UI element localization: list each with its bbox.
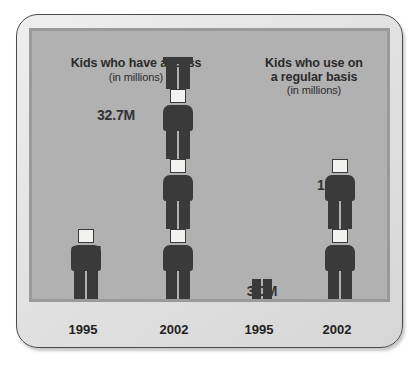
person-leg-left (74, 270, 85, 299)
person-icon (157, 89, 199, 159)
pictogram-column-use-1995 (241, 279, 283, 299)
person-leg-right (179, 130, 190, 159)
person-head (332, 229, 348, 243)
pictogram-chart-panel: Kids who have access (in millions) Kids … (29, 28, 390, 302)
chart-title-use-line1: Kids who use on (265, 56, 363, 70)
pictogram-column-use-2002 (319, 159, 361, 299)
person-leg-right (341, 200, 352, 229)
person-icon (157, 159, 199, 229)
chart-title-use-subtitle: (in millions) (236, 84, 390, 97)
person-torso (163, 245, 193, 271)
person-icon (319, 159, 361, 229)
person-torso (325, 245, 355, 271)
person-leg-right (87, 270, 98, 299)
axis-tick-access-2002: 2002 (144, 322, 204, 337)
person-torso (71, 245, 101, 271)
person-head (332, 159, 348, 173)
person-icon (65, 229, 107, 299)
axis-tick-use-1995: 1995 (229, 322, 289, 337)
person-leg-left (166, 130, 177, 159)
person-leg-left (166, 63, 177, 89)
person-icon-stub (241, 279, 283, 299)
person-head (170, 89, 186, 103)
chart-title-access-subtitle: (in millions) (40, 71, 232, 84)
person-icon (157, 229, 199, 299)
person-leg-right (263, 279, 272, 299)
axis-tick-access-1995: 1995 (53, 322, 113, 337)
person-leg-left (328, 200, 339, 229)
chart-title-use-line2: a regular basis (271, 70, 358, 84)
person-leg-left (166, 200, 177, 229)
value-label-access-2002: 32.7M (80, 107, 152, 123)
person-icon-partial (157, 57, 199, 89)
person-icon (319, 229, 361, 299)
person-leg-right (179, 270, 190, 299)
chart-title-use: Kids who use on a regular basis (in mill… (236, 57, 390, 97)
person-head (170, 229, 186, 243)
person-leg-right (341, 270, 352, 299)
person-leg-left (328, 270, 339, 299)
person-torso (163, 105, 193, 131)
person-torso (325, 175, 355, 201)
pictogram-column-access-1995 (65, 229, 107, 299)
person-head (78, 229, 94, 243)
axis-tick-use-2002: 2002 (307, 322, 367, 337)
chart-title-access: Kids who have access (in millions) (40, 57, 232, 83)
person-torso (163, 175, 193, 201)
person-leg-right (179, 63, 190, 89)
figure-frame: Kids who have access (in millions) Kids … (16, 14, 403, 348)
person-leg-left (252, 279, 261, 299)
person-leg-left (166, 270, 177, 299)
person-leg-right (179, 200, 190, 229)
person-head (170, 159, 186, 173)
pictogram-column-access-2002 (157, 57, 199, 299)
